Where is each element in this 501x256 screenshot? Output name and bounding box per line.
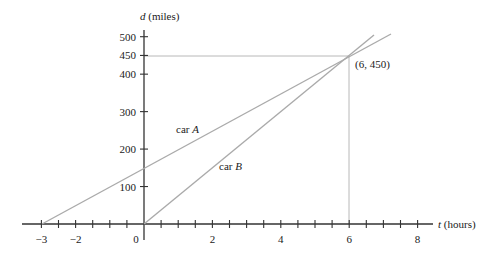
x-tick-label: 0: [133, 233, 139, 245]
car-a-label: car A: [176, 123, 199, 135]
car-a-line: [42, 34, 391, 224]
x-tick-label: 4: [278, 233, 284, 245]
x-axis-tick-labels: −3−202468: [36, 233, 421, 245]
y-axis-title: d (miles): [140, 10, 180, 23]
y-tick-label: 300: [120, 106, 137, 118]
x-tick-label: 2: [210, 233, 216, 245]
y-tick-label: 200: [120, 143, 137, 155]
y-tick-label: 100: [120, 181, 137, 193]
intersection-label: (6, 450): [355, 58, 390, 71]
x-axis-title: t (hours): [438, 218, 476, 231]
y-tick-label: 500: [120, 31, 137, 43]
x-tick-label: 8: [415, 233, 421, 245]
x-tick-label: 6: [346, 233, 352, 245]
distance-time-chart: car A car B (6, 450) d (miles) t (hours)…: [0, 0, 501, 256]
y-tick-label: 400: [120, 68, 137, 80]
car-b-label: car B: [219, 160, 242, 172]
y-axis-tick-labels: 100200300400450500: [120, 31, 137, 193]
y-tick-label: 450: [120, 49, 137, 61]
x-tick-label: −3: [36, 233, 48, 245]
x-tick-label: −2: [70, 233, 82, 245]
